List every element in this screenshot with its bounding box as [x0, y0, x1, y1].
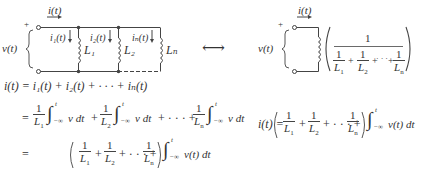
- plus-sign-right: +: [278, 20, 283, 29]
- fraction-1-L1: 1L1: [79, 140, 91, 167]
- integral-sign: ∫: [367, 109, 372, 129]
- equals: =: [22, 112, 29, 124]
- integrand: v(t) dt: [388, 119, 415, 130]
- fraction-1-Ln: 1Ln: [143, 140, 155, 167]
- lower-limit: −∞: [121, 118, 130, 125]
- plus-sign: +: [24, 20, 29, 29]
- inductor-label-n: Lₙ: [166, 44, 178, 56]
- fraction-1-L2: 1L2: [104, 140, 116, 167]
- plus: +: [348, 56, 354, 66]
- fraction-term-1: 1L1: [33, 103, 45, 130]
- equivalent-current-label: i(t): [298, 5, 311, 16]
- integrand: v(t) dt: [184, 149, 211, 160]
- inductor-L1: [79, 38, 81, 63]
- inductor-label-2: L₂: [124, 44, 135, 56]
- equivalence-arrow: ⟷: [202, 40, 225, 56]
- ellipsis: · · ·: [376, 55, 388, 63]
- plus: + · · · +: [158, 112, 196, 124]
- fraction-1-L2: 1L2: [357, 49, 369, 76]
- voltage-label-right: v(t): [258, 43, 273, 54]
- lower-limit: −∞: [214, 118, 223, 125]
- source-current-label: i(t): [48, 5, 61, 16]
- plus: +: [299, 118, 306, 130]
- fraction-1-Ln: 1Ln: [393, 49, 405, 76]
- fraction-1-L2: 1L2: [308, 110, 320, 137]
- integral-sign: ∫: [47, 103, 52, 123]
- integral-sign: ∫: [114, 103, 119, 123]
- branch-current-2: i₂(t): [90, 33, 106, 43]
- lower-limit: −∞: [170, 154, 179, 161]
- integrand: v dt: [68, 113, 84, 124]
- upper-limit: t: [122, 101, 124, 108]
- branch-current-1: i₁(t): [50, 33, 66, 43]
- terminal-top: [37, 26, 41, 30]
- upper-limit: t: [375, 107, 377, 114]
- fraction-1-Ln: 1Ln: [347, 110, 359, 137]
- inductor-Ln: [161, 38, 163, 63]
- voltage-label: v(t): [2, 43, 17, 54]
- equivalent-numerator: 1: [365, 33, 371, 44]
- upper-limit: t: [55, 101, 57, 108]
- lower-limit: −∞: [54, 118, 63, 125]
- branch-current-n: iₙ(t): [132, 33, 148, 43]
- lower-limit: −∞: [374, 124, 383, 131]
- fraction-1-L1: 1L1: [333, 49, 345, 76]
- kcl-equation: i(t) = i₁(t) + i₂(t) + · · · + iₙ(t): [4, 80, 147, 92]
- inductor-equivalent: [319, 37, 321, 62]
- integral-sign: ∫: [207, 103, 212, 123]
- integrand: v dt: [135, 113, 151, 124]
- inductor-label-1: L₁: [84, 44, 95, 56]
- inductor-L2: [119, 38, 121, 63]
- result-lhs: i(t) =: [258, 118, 284, 130]
- equals: =: [22, 148, 29, 160]
- upper-limit: t: [171, 137, 173, 144]
- integrand: v dt: [228, 113, 244, 124]
- integral-sign: ∫: [163, 139, 168, 159]
- terminal-bottom: [37, 70, 41, 74]
- fraction-term-n: 1Ln: [193, 103, 205, 130]
- plus: +: [91, 112, 98, 124]
- plus: +: [95, 148, 102, 160]
- fraction-term-2: 1L2: [100, 103, 112, 130]
- fraction-1-L1: 1L1: [283, 110, 295, 137]
- upper-limit: t: [215, 101, 217, 108]
